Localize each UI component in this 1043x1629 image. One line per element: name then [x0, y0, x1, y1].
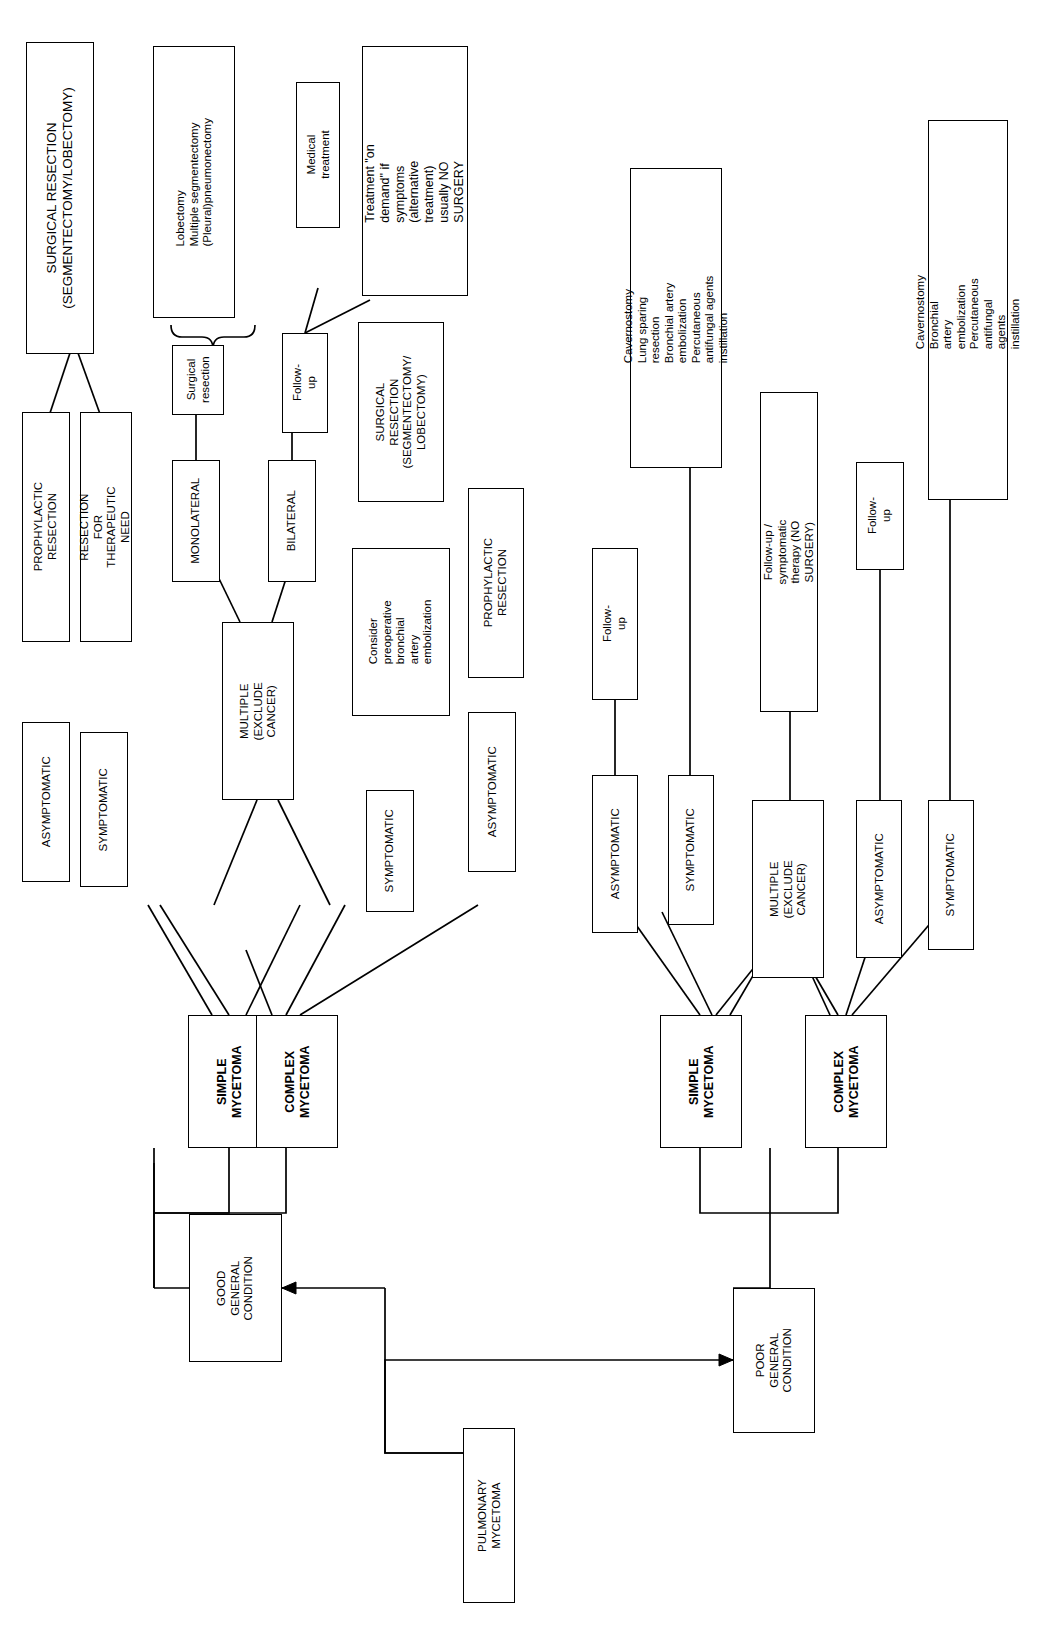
node-poor-general-condition[interactable]: POOR GENERAL CONDITION [733, 1288, 815, 1433]
node-label: PROPHYLACTIC RESECTION [32, 482, 59, 571]
node-consider-preoperative-embolization[interactable]: Consider preoperative bronchial artery e… [352, 548, 450, 716]
node-label: SYMPTOMATIC [944, 833, 958, 916]
node-follow-up-symptomatic-therapy[interactable]: Follow-up / symptomatic therapy (NO SURG… [760, 392, 818, 712]
node-label: POOR GENERAL CONDITION [754, 1328, 795, 1393]
node-asymptomatic-left-2[interactable]: ASYMPTOMATIC [468, 712, 516, 872]
node-cavernostomy-list-1[interactable]: Cavernostomy Lung sparing resection Bron… [630, 168, 722, 468]
node-bilateral[interactable]: BILATERAL [268, 460, 316, 582]
node-simple-mycetoma-right[interactable]: SIMPLE MYCETOMA [660, 1015, 742, 1148]
node-asymptomatic-right-1[interactable]: ASYMPTOMATIC [592, 775, 638, 933]
node-surgical-resection-segmentectomy-lobectomy-2[interactable]: SURGICAL RESECTION (SEGMENTECTOMY/ LOBEC… [358, 322, 444, 502]
node-label: Follow-up [866, 493, 893, 539]
node-label: RESECTION FOR THERAPEUTIC NEED [79, 486, 133, 567]
node-treatment-on-demand[interactable]: Treatment "on demand" if symptoms (alter… [362, 46, 468, 296]
node-pulmonary-mycetoma[interactable]: PULMONARY MYCETOMA [463, 1428, 515, 1603]
node-label: ASYMPTOMATIC [39, 757, 53, 848]
node-label: PROPHYLACTIC RESECTION [482, 538, 509, 627]
node-label: Cavernostomy Bronchial artery embolizati… [914, 271, 1023, 349]
node-surgical-resection-segmentectomy-lobectomy[interactable]: SURGICAL RESECTION (SEGMENTECTOMY/LOBECT… [26, 42, 94, 354]
node-symptomatic-left-2[interactable]: SYMPTOMATIC [366, 790, 414, 912]
node-label: SIMPLE MYCETOMA [214, 1045, 244, 1118]
node-label: MULTIPLE (EXCLUDE CANCER) [768, 860, 809, 918]
node-resection-for-therapeutic-need[interactable]: RESECTION FOR THERAPEUTIC NEED [80, 412, 132, 642]
node-symptomatic-right-2[interactable]: SYMPTOMATIC [928, 800, 974, 950]
node-label: GOOD GENERAL CONDITION [215, 1256, 256, 1321]
node-cavernostomy-list-2[interactable]: Cavernostomy Bronchial artery embolizati… [928, 120, 1008, 500]
node-label: Follow-up [601, 602, 628, 646]
node-prophylactic-resection-1[interactable]: PROPHYLACTIC RESECTION [22, 412, 70, 642]
node-monolateral[interactable]: MONOLATERAL [172, 460, 220, 582]
node-follow-up-right-1[interactable]: Follow-up [592, 548, 638, 700]
node-surgical-resection-2[interactable]: Surgical resection [172, 345, 224, 415]
flowchart-canvas: PULMONARY MYCETOMA GOOD GENERAL CONDITIO… [0, 0, 1043, 1629]
node-label: ASYMPTOMATIC [872, 834, 886, 925]
node-lobectomy-list[interactable]: Lobectomy Multiple segmentectomy (Pleura… [153, 46, 235, 318]
node-symptomatic-right-1[interactable]: SYMPTOMATIC [668, 775, 714, 925]
node-good-general-condition[interactable]: GOOD GENERAL CONDITION [189, 1214, 282, 1362]
node-label: Follow-up [291, 361, 318, 405]
node-follow-up-right-2[interactable]: Follow-up [856, 462, 904, 570]
node-medical-treatment[interactable]: Medical treatment [296, 82, 340, 228]
node-label: Follow-up / symptomatic therapy (NO SURG… [762, 520, 816, 585]
node-label: Surgical resection [184, 357, 211, 404]
node-label: ASYMPTOMATIC [608, 809, 622, 900]
node-prophylactic-resection-2[interactable]: PROPHYLACTIC RESECTION [468, 488, 524, 678]
node-label: Treatment "on demand" if symptoms (alter… [363, 119, 466, 223]
node-multiple-exclude-cancer-right[interactable]: MULTIPLE (EXCLUDE CANCER) [752, 800, 824, 978]
node-label: SYMPTOMATIC [684, 808, 698, 891]
node-label: MONOLATERAL [189, 478, 203, 564]
node-complex-mycetoma-left[interactable]: COMPLEX MYCETOMA [256, 1015, 338, 1148]
node-label: SYMPTOMATIC [97, 768, 111, 851]
node-asymptomatic-left-1[interactable]: ASYMPTOMATIC [22, 722, 70, 882]
node-complex-mycetoma-right[interactable]: COMPLEX MYCETOMA [805, 1015, 887, 1148]
node-multiple-exclude-cancer-left[interactable]: MULTIPLE (EXCLUDE CANCER) [222, 622, 294, 800]
node-label: SYMPTOMATIC [383, 809, 397, 892]
node-label: SURGICAL RESECTION (SEGMENTECTOMY/ LOBEC… [374, 356, 428, 469]
node-symptomatic-left-1[interactable]: SYMPTOMATIC [80, 732, 128, 887]
node-label: MULTIPLE (EXCLUDE CANCER) [238, 682, 279, 740]
node-label: Consider preoperative bronchial artery e… [367, 600, 435, 665]
node-label: COMPLEX MYCETOMA [831, 1045, 861, 1118]
node-label: SURGICAL RESECTION (SEGMENTECTOMY/LOBECT… [44, 87, 76, 309]
node-label: Lobectomy Multiple segmentectomy (Pleura… [174, 118, 215, 246]
node-label: ASYMPTOMATIC [485, 747, 499, 838]
node-label: BILATERAL [285, 490, 299, 551]
node-label: COMPLEX MYCETOMA [282, 1045, 312, 1118]
node-label: SIMPLE MYCETOMA [686, 1045, 716, 1118]
node-label: Medical treatment [304, 131, 331, 180]
node-asymptomatic-right-2[interactable]: ASYMPTOMATIC [856, 800, 902, 958]
node-label: Cavernostomy Lung sparing resection Bron… [622, 273, 731, 363]
node-follow-up-left[interactable]: Follow-up [282, 333, 328, 433]
node-label: PULMONARY MYCETOMA [475, 1479, 502, 1552]
